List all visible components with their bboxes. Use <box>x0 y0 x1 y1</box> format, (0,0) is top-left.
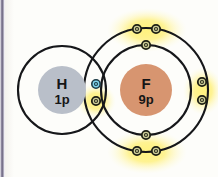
electron-f-outer-bottom-1 <box>133 147 141 155</box>
electron-f-outer-right-2 <box>198 96 206 104</box>
hydrogen-symbol: H <box>57 75 68 92</box>
electron-bond-electron-h <box>92 80 100 88</box>
electron-f-outer-bottom-2 <box>152 147 160 155</box>
electron-bond-electron-f <box>92 97 100 105</box>
diagram-canvas: H1pF9p <box>0 0 218 177</box>
electron-f-outer-top-1 <box>133 25 141 33</box>
electron-f-outer-top-2 <box>152 25 160 33</box>
fluorine-proton-count: 9p <box>138 92 153 107</box>
electron-f-inner-top <box>142 41 150 49</box>
hf-covalent-bond-diagram: H1pF9p <box>0 0 218 177</box>
electron-f-outer-right-1 <box>198 78 206 86</box>
fluorine-symbol: F <box>141 75 150 92</box>
electron-f-inner-bottom <box>142 131 150 139</box>
hydrogen-proton-count: 1p <box>54 92 69 107</box>
